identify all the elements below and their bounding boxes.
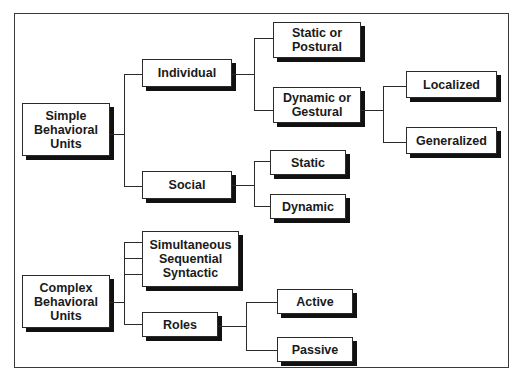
node-individual: Individual [142,59,232,87]
node-localized: Localized [406,71,497,98]
connector-line [124,274,142,275]
node-complex-behavioral-units: Complex Behavioral Units [22,275,110,328]
connector-line [383,86,406,87]
connector-line [110,134,124,135]
connector-line [246,350,277,351]
node-simple-behavioral-units: Simple Behavioral Units [22,103,110,156]
connector-line [246,302,247,351]
connector-line [232,185,254,186]
node-active: Active [277,289,353,314]
connector-line [254,38,255,111]
connector-line [254,110,273,111]
connector-line [124,242,125,325]
connector-line [124,74,142,75]
node-roles: Roles [142,312,218,337]
connector-line [124,242,142,243]
node-social-dynamic: Dynamic [270,194,346,219]
connector-line [110,302,124,303]
connector-line [254,161,270,162]
connector-line [124,74,125,186]
connector-line [246,302,277,303]
node-passive: Passive [277,337,353,362]
node-social-static: Static [270,150,346,175]
connector-line [254,161,255,207]
connector-line [383,142,406,143]
connector-line [124,324,142,325]
connector-line [232,74,254,75]
connector-line [124,186,142,187]
node-dynamic-or-gestural: Dynamic or Gestural [273,87,361,123]
connector-line [218,326,246,327]
connector-line [124,258,142,259]
connector-line [361,110,383,111]
connector-line [254,206,270,207]
node-generalized: Generalized [406,127,497,154]
node-static-or-postural: Static or Postural [273,22,361,58]
connector-line [383,86,384,142]
connector-line [254,38,273,39]
node-social: Social [142,171,232,199]
node-simultaneous-sequential-syntactic: Simultaneous Sequential Syntactic [142,231,239,287]
